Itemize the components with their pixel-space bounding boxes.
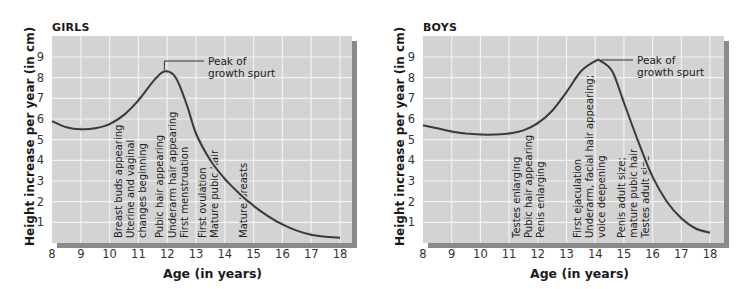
- x-tick-label: 18: [703, 247, 718, 261]
- milestone-label: Pubic hair appearing: [523, 135, 534, 238]
- y-tick-label: 3: [37, 174, 44, 188]
- x-tick-label: 18: [333, 247, 348, 261]
- y-tick-label: 6: [408, 112, 415, 126]
- y-tick-label: 9: [408, 50, 415, 64]
- y-tick-label: 1: [408, 215, 415, 229]
- milestone-label: changes beginning: [137, 143, 148, 238]
- x-tick-label: 9: [77, 247, 84, 261]
- y-tick-label: 7: [408, 91, 415, 105]
- x-tick-label: 15: [617, 247, 632, 261]
- milestone-label: Pubic hair appearing: [154, 135, 165, 238]
- boys-chart: 89101112131415161718123456789Testes enla…: [375, 0, 751, 289]
- peak-label: growth spurt: [208, 67, 275, 79]
- x-tick-label: 13: [189, 247, 204, 261]
- milestone-label: Underarm hair appearing: [167, 112, 178, 238]
- x-tick-label: 14: [217, 247, 232, 261]
- y-tick-label: 8: [37, 71, 44, 85]
- x-tick-label: 15: [246, 247, 261, 261]
- milestone-label: First ejaculation: [572, 159, 583, 238]
- x-tick-label: 17: [304, 247, 319, 261]
- girls-chart: 89101112131415161718123456789Breast buds…: [0, 0, 375, 289]
- milestone-label: Underarm, facial hair appearing;: [584, 75, 595, 238]
- x-tick-label: 13: [559, 247, 574, 261]
- peak-label: growth spurt: [637, 66, 704, 78]
- y-tick-label: 5: [37, 133, 44, 147]
- peak-label: Peak of: [208, 55, 247, 67]
- milestone-label: Breast buds appearing: [113, 125, 124, 238]
- y-tick-label: 4: [408, 153, 415, 167]
- y-tick-label: 7: [37, 91, 44, 105]
- x-tick-label: 16: [275, 247, 290, 261]
- y-tick-label: 2: [408, 195, 415, 209]
- milestone-label: Penis enlarging: [535, 162, 546, 238]
- milestone-label: Uterine and vaginal: [125, 140, 136, 238]
- y-tick-label: 5: [408, 133, 415, 147]
- x-tick-label: 12: [530, 247, 545, 261]
- y-tick-label: 6: [37, 112, 44, 126]
- x-tick-label: 11: [502, 247, 517, 261]
- x-tick-label: 8: [48, 247, 55, 261]
- y-tick-label: 1: [37, 215, 44, 229]
- milestone-label: voice deepening: [596, 155, 607, 238]
- milestone-label: mature pubic hair: [628, 148, 639, 238]
- y-tick-label: 8: [408, 71, 415, 85]
- x-tick-label: 14: [588, 247, 603, 261]
- y-tick-label: 9: [37, 50, 44, 64]
- milestone-label: First ovulation: [197, 167, 208, 238]
- x-tick-label: 17: [674, 247, 689, 261]
- boys-panel: BOYS Height increase per year (in cm) Ag…: [375, 0, 751, 289]
- x-tick-label: 12: [160, 247, 175, 261]
- y-tick-label: 2: [37, 195, 44, 209]
- milestone-label: Penis adult size;: [616, 157, 627, 238]
- x-tick-label: 9: [448, 247, 455, 261]
- x-tick-label: 16: [645, 247, 660, 261]
- x-tick-label: 10: [102, 247, 117, 261]
- peak-label: Peak of: [637, 54, 676, 66]
- x-tick-label: 8: [419, 247, 426, 261]
- milestone-label: First menstruation: [179, 147, 190, 238]
- milestone-label: Testes enlarging: [511, 157, 522, 239]
- x-tick-label: 11: [131, 247, 146, 261]
- y-tick-label: 3: [408, 174, 415, 188]
- x-tick-label: 10: [473, 247, 488, 261]
- girls-panel: GIRLS Height increase per year (in cm) A…: [0, 0, 375, 289]
- y-tick-label: 4: [37, 153, 44, 167]
